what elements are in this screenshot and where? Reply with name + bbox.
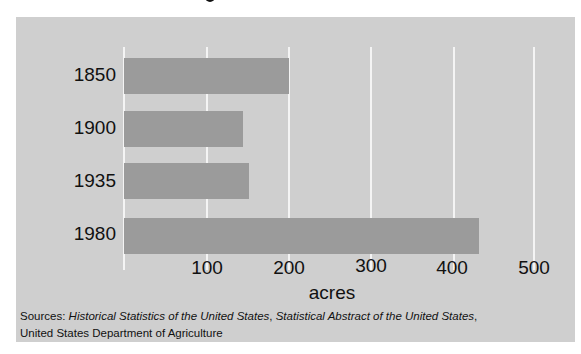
- chart-panel: 1850 1900 1935 1980 100 200 300 400 500 …: [16, 17, 575, 342]
- source-title-2: Statistical Abstract of the United State…: [276, 310, 474, 322]
- sources-note: Sources: Historical Statistics of the Un…: [20, 308, 560, 342]
- bar-1850: [124, 58, 289, 94]
- title-fragment: [205, 0, 215, 2]
- y-label-1850: 1850: [16, 64, 116, 86]
- x-tick-500: 500: [504, 257, 564, 279]
- gridline-500: [533, 47, 535, 270]
- source-title-1: Historical Statistics of the United Stat…: [69, 310, 270, 322]
- x-tick-200: 200: [259, 257, 319, 279]
- source-line-2: United States Department of Agriculture: [20, 327, 223, 339]
- x-tick-300: 300: [341, 255, 401, 277]
- y-label-1900: 1900: [16, 117, 116, 139]
- sources-suffix: ,: [474, 310, 477, 322]
- sources-prefix: Sources:: [20, 310, 69, 322]
- x-tick-100: 100: [177, 257, 237, 279]
- x-tick-400: 400: [422, 257, 482, 279]
- y-label-1980: 1980: [16, 223, 116, 245]
- bar-1900: [124, 111, 243, 147]
- bar-1980: [124, 218, 479, 254]
- bar-1935: [124, 163, 249, 199]
- y-label-1935: 1935: [16, 170, 116, 192]
- x-axis-title: acres: [282, 282, 382, 304]
